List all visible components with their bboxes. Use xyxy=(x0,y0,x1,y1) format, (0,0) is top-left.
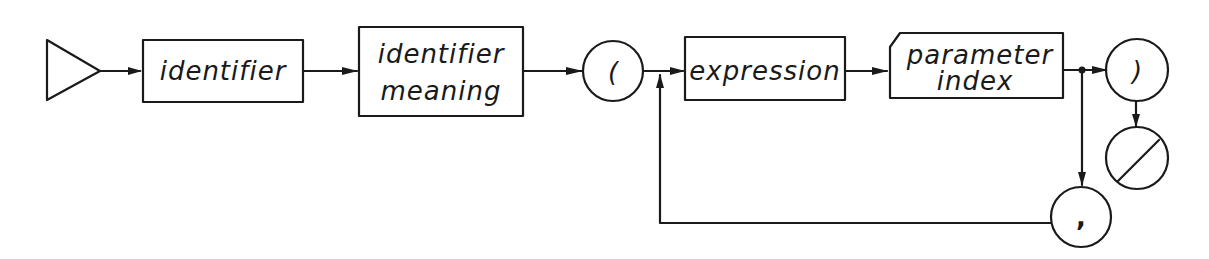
node-identifier-meaning: identifier meaning xyxy=(359,27,523,116)
node-comma: , xyxy=(1051,187,1111,247)
arrow-icon xyxy=(1132,114,1140,127)
node-identifier: identifier xyxy=(143,40,303,102)
arrow-icon xyxy=(566,67,583,75)
node-comma-label: , xyxy=(1076,202,1086,232)
node-parameter-index: parameter index xyxy=(890,33,1063,98)
node-end xyxy=(1106,127,1168,189)
arrow-icon xyxy=(128,67,142,75)
node-rparen: ) xyxy=(1106,39,1168,101)
node-identifier-meaning-line2: meaning xyxy=(381,76,502,106)
node-parameter-index-line2: index xyxy=(937,66,1014,96)
arrow-icon xyxy=(656,74,664,88)
arrow-icon xyxy=(670,67,685,75)
start-triangle-icon xyxy=(47,40,100,100)
node-rparen-label: ) xyxy=(1130,56,1142,86)
arrow-icon xyxy=(1078,172,1086,186)
node-lparen: ( xyxy=(583,41,643,101)
node-lparen-label: ( xyxy=(608,57,620,87)
syntax-diagram: identifier identifier meaning ( expressi… xyxy=(0,0,1209,259)
node-expression: expression xyxy=(685,37,845,100)
arrow-icon xyxy=(342,67,358,75)
node-identifier-meaning-line1: identifier xyxy=(378,39,506,69)
end-slash-icon xyxy=(1118,140,1159,181)
node-identifier-label: identifier xyxy=(160,56,288,86)
arrow-icon xyxy=(872,67,888,75)
node-expression-label: expression xyxy=(689,56,840,86)
